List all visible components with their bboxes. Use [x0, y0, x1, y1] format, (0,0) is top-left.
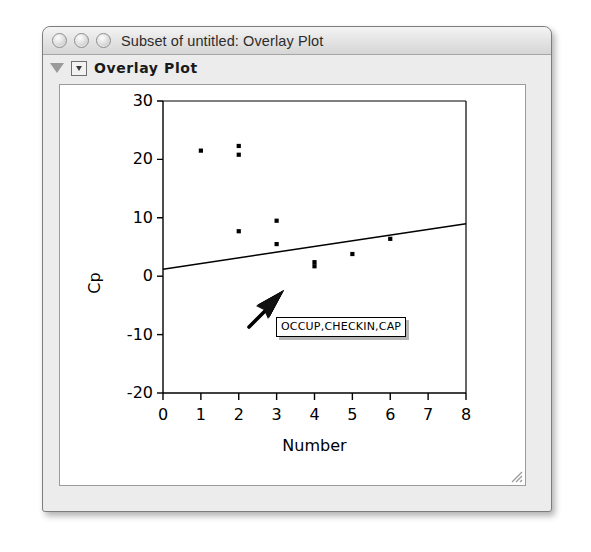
y-tick-label: -20: [127, 383, 153, 402]
plot-panel: -20-100102030012345678NumberCp: [59, 84, 526, 486]
data-point[interactable]: [350, 252, 354, 256]
data-point[interactable]: [388, 237, 392, 241]
x-tick-label: 2: [234, 405, 244, 424]
overlay-plot-chart[interactable]: -20-100102030012345678NumberCp: [60, 85, 523, 483]
close-button[interactable]: [52, 33, 67, 48]
red-triangle-menu-icon[interactable]: [71, 61, 87, 76]
data-point[interactable]: [275, 219, 279, 223]
disclosure-triangle-icon[interactable]: [50, 63, 64, 73]
x-tick-label: 7: [423, 405, 433, 424]
x-tick-label: 6: [385, 405, 395, 424]
datapoint-tooltip: OCCUP,CHECKIN,CAP: [276, 317, 406, 337]
resize-grip[interactable]: [509, 469, 524, 484]
x-tick-label: 8: [461, 405, 471, 424]
data-point[interactable]: [199, 149, 203, 153]
data-point[interactable]: [275, 242, 279, 246]
data-point[interactable]: [237, 144, 241, 148]
outline-title: Overlay Plot: [94, 60, 198, 76]
minimize-button[interactable]: [74, 33, 89, 48]
y-tick-label: 20: [133, 149, 153, 168]
plot-window: Subset of untitled: Overlay Plot Overlay…: [42, 26, 552, 512]
window-title: Subset of untitled: Overlay Plot: [121, 33, 323, 49]
x-tick-label: 0: [158, 405, 168, 424]
x-tick-label: 4: [309, 405, 319, 424]
x-tick-label: 5: [347, 405, 357, 424]
window-controls: [52, 33, 111, 48]
data-point[interactable]: [312, 260, 316, 264]
data-point[interactable]: [237, 153, 241, 157]
x-axis-title: Number: [282, 436, 347, 455]
y-tick-label: -10: [127, 325, 153, 344]
y-tick-label: 10: [133, 208, 153, 227]
zoom-button[interactable]: [96, 33, 111, 48]
outline-row: Overlay Plot: [43, 55, 551, 81]
x-tick-label: 1: [196, 405, 206, 424]
y-axis-title: Cp: [85, 272, 104, 293]
data-point[interactable]: [237, 229, 241, 233]
screen: Subset of untitled: Overlay Plot Overlay…: [0, 0, 591, 552]
x-tick-label: 3: [272, 405, 282, 424]
y-tick-label: 30: [133, 91, 153, 110]
data-point[interactable]: [312, 264, 316, 268]
window-titlebar[interactable]: Subset of untitled: Overlay Plot: [43, 27, 551, 55]
mouse-cursor-icon: [243, 287, 289, 333]
y-tick-label: 0: [143, 266, 153, 285]
